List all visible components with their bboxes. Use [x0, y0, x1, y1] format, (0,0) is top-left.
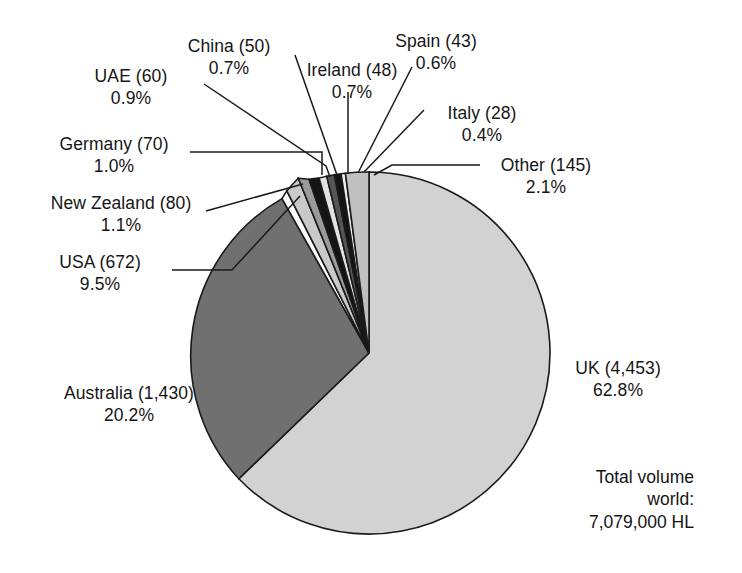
slice-label-new-zealand-percent: 1.1%	[51, 215, 192, 237]
slice-label-uae-percent: 0.9%	[95, 88, 168, 110]
slice-label-australia-name: Australia (1,430)	[64, 383, 194, 405]
slice-label-uk-name: UK (4,453)	[575, 358, 661, 380]
slice-label-usa-name: USA (672)	[59, 252, 141, 274]
slice-label-other-name: Other (145)	[501, 155, 592, 177]
slice-label-italy: Italy (28) 0.4%	[447, 103, 516, 146]
slice-label-australia: Australia (1,430) 20.2%	[64, 383, 194, 426]
slice-label-other-percent: 2.1%	[501, 177, 592, 199]
slice-label-china-name: China (50)	[188, 36, 271, 58]
slice-label-uae: UAE (60) 0.9%	[95, 66, 168, 109]
slice-label-uk: UK (4,453) 62.8%	[575, 358, 661, 401]
slice-label-uk-percent: 62.8%	[575, 380, 661, 402]
total-volume-line-3: 7,079,000 HL	[589, 511, 694, 533]
slice-label-ireland-name: Ireland (48)	[307, 60, 398, 82]
pie-chart-figure: China (50) 0.7% UAE (60) 0.9% Germany (7…	[0, 0, 742, 573]
slice-label-other: Other (145) 2.1%	[501, 155, 592, 198]
slice-label-usa-percent: 9.5%	[59, 274, 141, 296]
leader-line-italy	[364, 110, 424, 172]
slice-label-germany-name: Germany (70)	[59, 134, 168, 156]
slice-label-spain-percent: 0.6%	[395, 53, 477, 75]
total-volume-line-2: world:	[589, 488, 694, 510]
slice-label-spain-name: Spain (43)	[395, 31, 477, 53]
slice-label-usa: USA (672) 9.5%	[59, 252, 141, 295]
slice-label-china: China (50) 0.7%	[188, 36, 271, 79]
slice-label-germany: Germany (70) 1.0%	[59, 134, 168, 177]
slice-label-uae-name: UAE (60)	[95, 66, 168, 88]
slice-label-australia-percent: 20.2%	[64, 405, 194, 427]
total-volume-note: Total volume world: 7,079,000 HL	[589, 466, 694, 533]
slice-label-spain: Spain (43) 0.6%	[395, 31, 477, 74]
slice-label-china-percent: 0.7%	[188, 58, 271, 80]
slice-label-italy-name: Italy (28)	[447, 103, 516, 125]
slice-label-ireland-percent: 0.7%	[307, 82, 398, 104]
total-volume-line-1: Total volume	[589, 466, 694, 488]
slice-label-italy-percent: 0.4%	[447, 125, 516, 147]
slice-label-new-zealand: New Zealand (80) 1.1%	[51, 193, 192, 236]
leader-line-germany	[190, 152, 322, 175]
pie-slices	[191, 172, 550, 534]
slice-label-new-zealand-name: New Zealand (80)	[51, 193, 192, 215]
slice-label-germany-percent: 1.0%	[59, 156, 168, 178]
slice-label-ireland: Ireland (48) 0.7%	[307, 60, 398, 103]
